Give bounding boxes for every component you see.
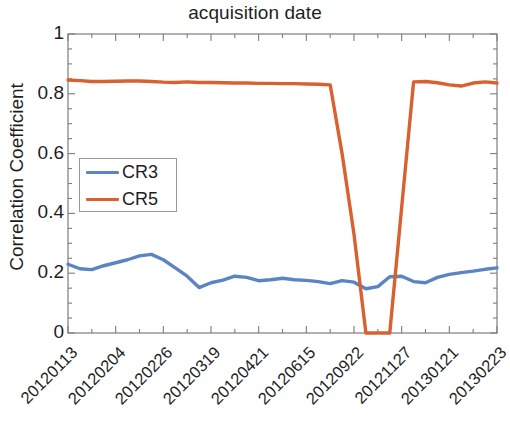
legend-swatch-cr5 xyxy=(86,198,119,201)
legend-item-cr3: CR3 xyxy=(80,159,178,186)
chart-figure: acquisition date Correlation Coefficient… xyxy=(0,0,510,427)
legend-swatch-cr3 xyxy=(86,171,119,174)
legend-item-cr5: CR5 xyxy=(80,186,178,213)
legend: CR3CR5 xyxy=(79,158,177,212)
legend-label: CR5 xyxy=(122,189,158,211)
legend-label: CR3 xyxy=(122,162,158,184)
x-axis-tick-labels: 2012011320120204201202262012031920120421… xyxy=(0,0,510,427)
